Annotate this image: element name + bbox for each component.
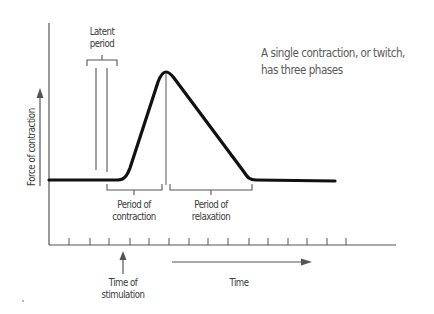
x-axis-label: Time bbox=[225, 276, 253, 288]
y-axis-label: Force of contraction bbox=[25, 108, 37, 186]
contraction-label-line-1: Period of bbox=[111, 198, 157, 210]
twitch-curve bbox=[49, 72, 335, 181]
diagram-caption: A single contraction, or twitch, has thr… bbox=[261, 44, 405, 78]
relaxation-label-line-2: relaxation bbox=[188, 210, 234, 222]
contraction-period-label: Period of contraction bbox=[111, 198, 157, 222]
contraction-label-line-2: contraction bbox=[111, 210, 157, 222]
stimulation-label-line-2: stimulation bbox=[98, 288, 147, 300]
relaxation-label-line-1: Period of bbox=[188, 198, 234, 210]
latent-label-line-1: Latent bbox=[86, 25, 119, 37]
latent-period-label: Latent period bbox=[86, 25, 119, 49]
caption-line-2: has three phases bbox=[261, 61, 405, 78]
relaxation-period-label: Period of relaxation bbox=[188, 198, 234, 222]
x-axis-ticks bbox=[69, 238, 346, 245]
latent-period-bracket bbox=[87, 55, 117, 172]
scan-speck bbox=[22, 300, 24, 302]
force-arrow-icon bbox=[37, 88, 44, 186]
caption-line-1: A single contraction, or twitch, bbox=[261, 44, 405, 61]
relaxation-period-bracket bbox=[170, 184, 252, 195]
stimulation-label-line-1: Time of bbox=[98, 276, 147, 288]
time-arrow-icon bbox=[172, 259, 312, 266]
contraction-period-bracket bbox=[107, 184, 162, 195]
latent-label-line-2: period bbox=[86, 37, 119, 49]
stimulation-arrow-icon bbox=[120, 251, 127, 274]
stimulation-label: Time of stimulation bbox=[98, 276, 147, 300]
